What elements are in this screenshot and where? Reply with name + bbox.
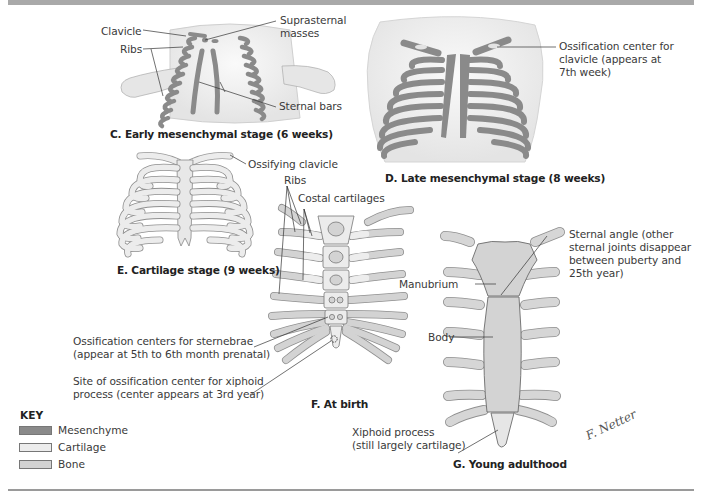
panel-g-illustration — [445, 232, 560, 453]
legend-label-cartilage: Cartilage — [58, 441, 106, 453]
legend-label-bone: Bone — [58, 458, 85, 470]
caption-panel-c: C. Early mesenchymal stage (6 weeks) — [110, 128, 333, 140]
label-ossification-clavicle-1: Ossification center for — [559, 40, 674, 52]
caption-panel-e: E. Cartilage stage (9 weeks) — [117, 264, 280, 276]
label-xiphoid-process-1: Xiphoid process — [352, 426, 434, 438]
swatch-cartilage — [19, 443, 52, 452]
legend-title: KEY — [20, 409, 43, 421]
legend-item-mesenchyme: Mesenchyme — [19, 424, 128, 436]
label-sternal-angle-1: Sternal angle (other — [569, 228, 673, 240]
label-suprasternal-masses-2: masses — [280, 27, 319, 39]
panel-e-illustration — [120, 155, 250, 254]
label-body: Body — [428, 331, 454, 343]
bottom-divider — [8, 489, 694, 491]
label-sternal-angle-4: 25th year) — [569, 267, 623, 279]
label-suprasternal-masses-1: Suprasternal — [280, 14, 346, 26]
label-xiphoid-site-2: process (center appears at 3rd year) — [73, 388, 264, 400]
label-costal-cartilages: Costal cartilages — [298, 192, 385, 204]
caption-panel-f: F. At birth — [311, 398, 368, 410]
label-ossifying-clavicle: Ossifying clavicle — [248, 158, 338, 170]
legend-label-mesenchyme: Mesenchyme — [58, 424, 128, 436]
legend-item-cartilage: Cartilage — [19, 441, 106, 453]
label-ossification-clavicle-3: 7th week) — [559, 66, 611, 78]
label-ribs-c: Ribs — [120, 43, 142, 55]
label-clavicle: Clavicle — [101, 25, 142, 37]
label-xiphoid-site-1: Site of ossification center for xiphoid — [73, 375, 264, 387]
panel-d-illustration — [367, 17, 556, 162]
legend-item-bone: Bone — [19, 458, 85, 470]
label-sternal-angle-2: sternal joints disappear — [569, 241, 691, 253]
label-sternebrae-2: (appear at 5th to 6th month prenatal) — [73, 348, 270, 360]
caption-panel-d: D. Late mesenchymal stage (8 weeks) — [385, 172, 605, 184]
label-sternebrae-1: Ossification centers for sternebrae — [73, 335, 253, 347]
swatch-bone — [19, 460, 52, 469]
label-manubrium: Manubrium — [399, 278, 458, 290]
label-ribs-f: Ribs — [284, 174, 306, 186]
label-ossification-clavicle-2: clavicle (appears at — [559, 53, 661, 65]
label-xiphoid-process-2: (still largely cartilage) — [352, 439, 466, 451]
label-sternal-bars: Sternal bars — [279, 100, 342, 112]
label-sternal-angle-3: between puberty and — [569, 254, 681, 266]
caption-panel-g: G. Young adulthood — [453, 458, 567, 470]
swatch-mesenchyme — [19, 426, 52, 435]
panel-f-illustration — [250, 186, 410, 395]
